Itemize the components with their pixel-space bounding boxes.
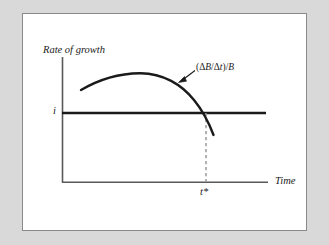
x-axis-tick-label-t-star: t* xyxy=(200,187,208,198)
y-axis-tick-label-i: i xyxy=(53,106,56,117)
figure-root: Rate of growth Time i t* (ΔB/Δt)/B xyxy=(0,0,329,245)
annotation-part-open: (Δ xyxy=(196,62,205,72)
curve-annotation-label: (ΔB/Δt)/B xyxy=(196,63,234,73)
annotation-part-slash: /Δ xyxy=(211,62,220,72)
y-axis-label: Rate of growth xyxy=(43,45,105,56)
x-axis-label: Time xyxy=(275,176,295,187)
annotation-part-b2: B xyxy=(228,62,234,72)
